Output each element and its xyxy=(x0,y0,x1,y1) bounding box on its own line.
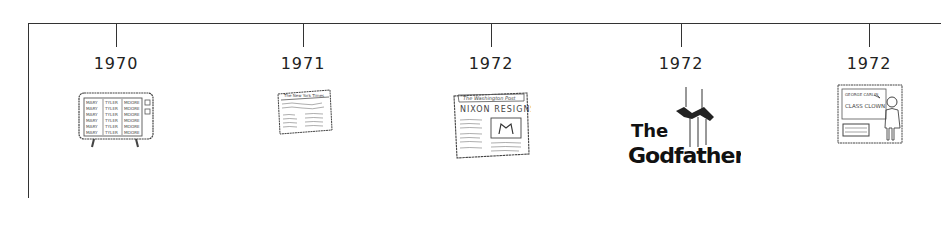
svg-text:NIXON RESIGNS: NIXON RESIGNS xyxy=(460,105,531,114)
svg-text:TYLER: TYLER xyxy=(104,118,118,123)
svg-text:MARY: MARY xyxy=(86,124,98,129)
tick-mark xyxy=(116,23,117,47)
event-year: 1971 xyxy=(263,54,343,73)
tick-mark xyxy=(869,23,870,47)
event-year: 1972 xyxy=(641,54,721,73)
svg-text:The: The xyxy=(631,120,668,141)
svg-text:CLASS CLOWN: CLASS CLOWN xyxy=(845,103,885,109)
svg-text:MOORE: MOORE xyxy=(124,130,140,135)
svg-text:TYLER: TYLER xyxy=(104,112,118,117)
tv-icon: MARY TYLER MOORE MARY TYLER MOORE MARY T… xyxy=(76,90,156,154)
chalkboard-teacher-icon: GEORGE CARLIN CLASS CLOWN xyxy=(836,82,906,150)
svg-text:MARY: MARY xyxy=(86,130,98,135)
timeline-axis xyxy=(28,23,941,24)
svg-text:TYLER: TYLER xyxy=(104,124,118,129)
tick-mark xyxy=(303,23,304,47)
svg-text:MOORE: MOORE xyxy=(124,124,140,129)
svg-text:MARY: MARY xyxy=(86,112,98,117)
godfather-logo-icon: The Godfather xyxy=(626,87,741,173)
event-year: 1972 xyxy=(829,54,909,73)
svg-text:TYLER: TYLER xyxy=(104,106,118,111)
svg-text:MOORE: MOORE xyxy=(124,100,140,105)
newspaper-icon: The Washington Post NIXON RESIGNS xyxy=(451,90,531,166)
svg-text:TYLER: TYLER xyxy=(104,130,118,135)
tick-mark xyxy=(491,23,492,47)
svg-text:Godfather: Godfather xyxy=(628,143,741,168)
svg-text:The New York Times: The New York Times xyxy=(283,93,324,98)
svg-text:GEORGE CARLIN: GEORGE CARLIN xyxy=(845,92,878,97)
svg-text:MOORE: MOORE xyxy=(124,112,140,117)
event-year: 1972 xyxy=(451,54,531,73)
svg-text:MOORE: MOORE xyxy=(124,118,140,123)
svg-text:TYLER: TYLER xyxy=(104,100,118,105)
svg-text:MARY: MARY xyxy=(86,100,98,105)
tick-mark xyxy=(681,23,682,47)
timeline-left-border xyxy=(28,23,29,198)
newspaper-icon: The New York Times xyxy=(275,88,335,142)
svg-text:MARY: MARY xyxy=(86,106,98,111)
event-year: 1970 xyxy=(76,54,156,73)
svg-text:The Washington Post: The Washington Post xyxy=(463,95,517,102)
svg-text:MOORE: MOORE xyxy=(124,106,140,111)
svg-text:MARY: MARY xyxy=(86,118,98,123)
